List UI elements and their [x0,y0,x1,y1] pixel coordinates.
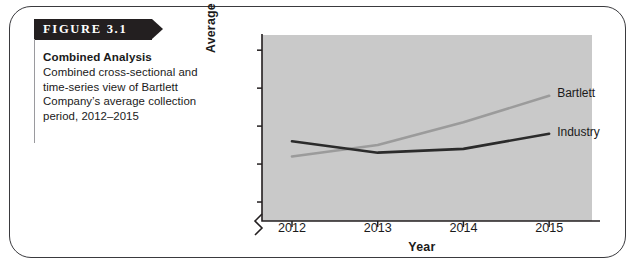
x-tick-label: 2012 [269,221,315,235]
figure-number-label: FIGURE 3.1 [34,22,127,37]
y-axis-title: Average Collection Period (days) [204,0,220,53]
x-tick-label: 2015 [526,221,572,235]
plot-area-wrapper: 3040506070 2012201320142015 BartlettIndu… [240,21,604,257]
x-axis-title: Year [240,240,604,254]
y-tick-labels: 3040506070 [240,21,264,221]
figure-card: FIGURE 3.1 Combined Analysis Combined cr… [9,6,626,258]
chevron-right-icon [152,19,163,39]
x-tick-label: 2013 [355,221,401,235]
caption-body: Combined Analysis Combined cross-section… [34,49,210,123]
series-label-industry: Industry [557,125,600,139]
line-chart: Average Collection Period (days) 3040506… [206,21,606,257]
x-tick-label: 2014 [440,221,486,235]
series-label-bartlett: Bartlett [557,86,595,100]
caption-description: Combined cross-sectional and time-series… [43,65,211,123]
caption-divider [34,39,35,143]
plot-background [262,35,592,221]
caption-title: Combined Analysis [43,49,210,64]
figure-number-tag: FIGURE 3.1 [34,19,152,40]
figure-caption-block: FIGURE 3.1 Combined Analysis Combined cr… [34,19,210,209]
